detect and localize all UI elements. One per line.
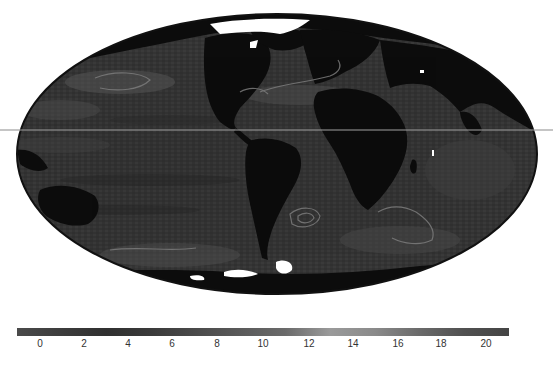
colorbar-tick-label: 4 bbox=[125, 338, 131, 349]
ice-caspian bbox=[420, 70, 424, 73]
colorbar-tick-label: 20 bbox=[480, 338, 491, 349]
scan-line-artifact bbox=[0, 129, 553, 131]
colorbar-tick-label: 2 bbox=[81, 338, 87, 349]
colorbar bbox=[17, 328, 509, 336]
ice-speck bbox=[432, 150, 434, 156]
colorbar-tick-label: 18 bbox=[435, 338, 446, 349]
colorbar-tick-label: 0 bbox=[37, 338, 43, 349]
colorbar-tick-label: 14 bbox=[347, 338, 358, 349]
colorbar-tick-label: 8 bbox=[214, 338, 220, 349]
colorbar-tick-label: 12 bbox=[303, 338, 314, 349]
world-map bbox=[0, 0, 553, 310]
colorbar-tick-label: 16 bbox=[392, 338, 403, 349]
colorbar-tick-label: 6 bbox=[169, 338, 175, 349]
colorbar-ticks: 02468101214161820 bbox=[0, 338, 553, 354]
colorbar-tick-label: 10 bbox=[257, 338, 268, 349]
map-svg bbox=[0, 0, 553, 310]
globe-content bbox=[0, 0, 553, 310]
